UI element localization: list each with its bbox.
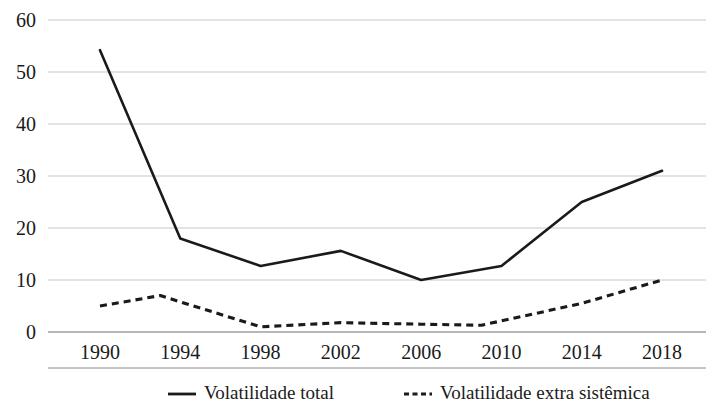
x-tick-label-1998: 1998 [241,341,281,363]
chart-legend: Volatilidade totalVolatilidade extra sis… [168,382,650,403]
y-tick-label-0: 0 [26,321,36,343]
chart-canvas: 0102030405060 19901994199820022006201020… [0,0,717,418]
series-line-0 [100,50,662,280]
y-axis-tick-labels: 0102030405060 [16,9,36,343]
x-tick-label-2002: 2002 [321,341,361,363]
x-tick-label-2014: 2014 [562,341,602,363]
gridlines [48,20,706,332]
data-series [100,50,662,327]
y-tick-label-10: 10 [16,269,36,291]
x-axis-tick-labels: 19901994199820022006201020142018 [80,341,682,363]
x-tick-label-2006: 2006 [401,341,441,363]
y-tick-label-50: 50 [16,61,36,83]
y-tick-label-40: 40 [16,113,36,135]
y-tick-label-60: 60 [16,9,36,31]
y-tick-label-30: 30 [16,165,36,187]
axis-lines [48,332,706,368]
volatility-line-chart: 0102030405060 19901994199820022006201020… [0,0,717,418]
legend-label-0: Volatilidade total [204,382,334,403]
x-tick-label-2010: 2010 [481,341,521,363]
x-tick-label-2018: 2018 [642,341,682,363]
y-tick-label-20: 20 [16,217,36,239]
series-line-1 [100,280,662,327]
legend-label-1: Volatilidade extra sistêmica [440,382,650,403]
x-tick-label-1990: 1990 [80,341,120,363]
x-tick-label-1994: 1994 [160,341,200,363]
